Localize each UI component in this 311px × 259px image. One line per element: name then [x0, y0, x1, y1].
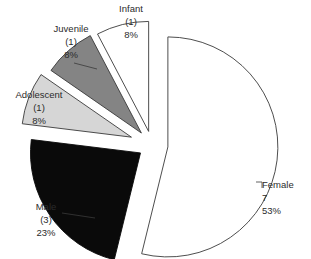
pie-slice-female[interactable]	[142, 37, 278, 257]
pie-label-juvenile: Juvenile (1) 8%	[40, 22, 102, 61]
pie-chart-figure: Infant (1) 8% Juvenile (1) 8% Adolescent…	[0, 0, 311, 259]
pie-label-female-percent: 53%	[262, 204, 310, 217]
pie-label-adolescent-name: Adolescent	[2, 88, 76, 101]
pie-label-infant-percent: 8%	[103, 28, 159, 41]
pie-label-infant-name: Infant	[103, 2, 159, 15]
pie-label-female-count: 7	[262, 191, 310, 204]
pie-label-juvenile-percent: 8%	[40, 48, 102, 61]
pie-label-adolescent-percent: 8%	[2, 114, 76, 127]
pie-label-male-count: (3)	[20, 213, 72, 226]
pie-label-juvenile-count: (1)	[40, 35, 102, 48]
pie-label-male: Male (3) 23%	[20, 200, 72, 239]
pie-label-male-name: Male	[20, 200, 72, 213]
pie-label-female-name: Female	[262, 178, 310, 191]
pie-label-male-percent: 23%	[20, 226, 72, 239]
pie-label-adolescent: Adolescent (1) 8%	[2, 88, 76, 127]
pie-label-juvenile-name: Juvenile	[40, 22, 102, 35]
pie-label-female: Female 7 53%	[262, 178, 310, 217]
pie-label-infant-count: (1)	[103, 15, 159, 28]
pie-label-infant: Infant (1) 8%	[103, 2, 159, 41]
pie-label-adolescent-count: (1)	[2, 101, 76, 114]
